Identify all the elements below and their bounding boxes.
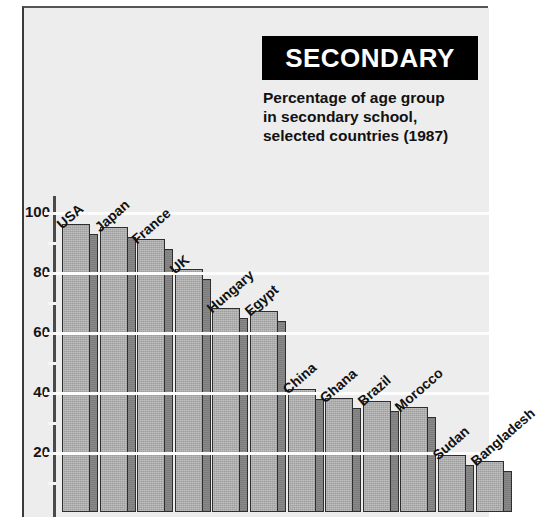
bar-side-usa (89, 234, 98, 512)
bar-side-egypt (277, 321, 286, 512)
bar-hungary[interactable] (212, 308, 240, 512)
bar-side-china (315, 399, 324, 512)
y-axis-tick-60 (44, 332, 56, 335)
y-axis-tick-20 (44, 452, 56, 455)
bar-usa[interactable] (62, 224, 90, 512)
bar-france[interactable] (137, 239, 165, 512)
bar-side-japan (127, 237, 136, 512)
chart-subtitle: Percentage of age group in secondary sch… (263, 88, 488, 145)
bar-ghana[interactable] (325, 398, 353, 512)
bar-side-uk (202, 279, 211, 512)
y-axis-tick-40 (44, 392, 56, 395)
y-axis-minor-tick-10 (48, 482, 56, 485)
chart-title-banner: SECONDARY (262, 36, 478, 80)
bar-side-morocco (427, 417, 436, 512)
y-axis-tick-100 (44, 212, 56, 215)
bar-side-bangladesh (503, 471, 512, 512)
bar-side-france (164, 249, 173, 512)
y-axis-tick-80 (44, 272, 56, 275)
bar-side-brazil (390, 411, 399, 512)
bar-china[interactable] (288, 389, 316, 512)
bar-japan[interactable] (100, 227, 128, 512)
subtitle-line-3: selected countries (1987) (263, 126, 488, 145)
y-axis-minor-tick-90 (48, 242, 56, 245)
subtitle-line-2: in secondary school, (263, 107, 488, 126)
bar-brazil[interactable] (363, 401, 391, 512)
bar-bangladesh[interactable] (476, 461, 504, 512)
subtitle-line-1: Percentage of age group (263, 88, 488, 107)
bar-sudan[interactable] (438, 455, 466, 512)
chart-title-text: SECONDARY (285, 43, 455, 74)
bar-side-hungary (239, 318, 248, 512)
bar-side-sudan (465, 465, 474, 512)
y-axis-minor-tick-50 (48, 362, 56, 365)
bar-morocco[interactable] (400, 407, 428, 512)
y-axis-minor-tick-30 (48, 422, 56, 425)
bar-side-ghana (352, 408, 361, 512)
y-axis-minor-tick-70 (48, 302, 56, 305)
bar-egypt[interactable] (250, 311, 278, 512)
bar-uk[interactable] (175, 269, 203, 512)
